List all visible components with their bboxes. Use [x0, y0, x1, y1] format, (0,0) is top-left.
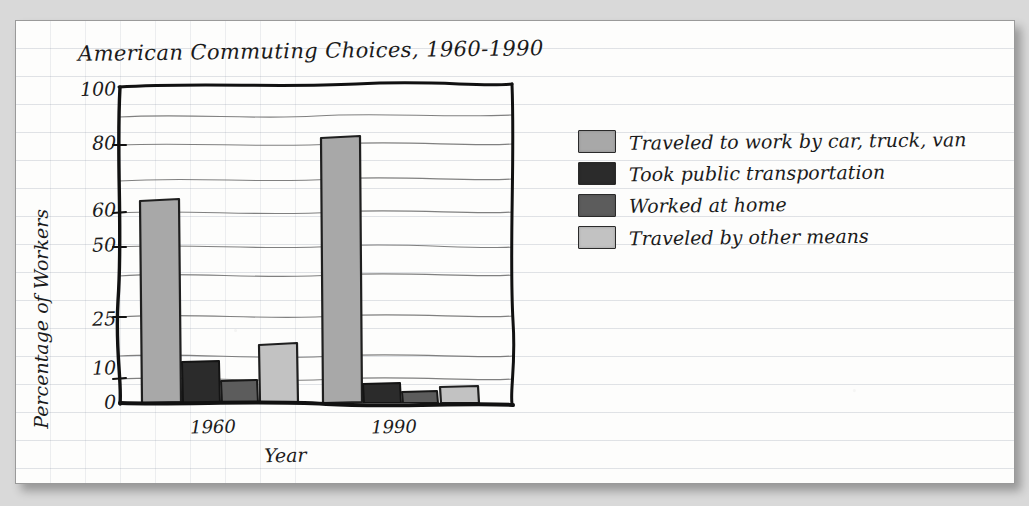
axis-x: [120, 402, 513, 405]
legend-item-worked-at-home: Worked at home: [578, 189, 967, 221]
bar-group-1990: [321, 136, 479, 403]
axis-top: [119, 83, 512, 87]
bars: [140, 136, 479, 403]
legend-swatch-other-means: [578, 226, 616, 249]
legend-item-car: Traveled to work by car, truck, van: [578, 125, 967, 157]
legend-swatch-car: [578, 130, 616, 153]
bar-1990-car: [321, 136, 362, 403]
legend-item-other-means: Traveled by other means: [578, 221, 967, 253]
bar-1960-car: [140, 199, 181, 403]
legend-swatch-worked-at-home: [578, 194, 616, 217]
bar-1960-home: [221, 380, 258, 403]
bar-1960-other: [259, 343, 298, 403]
bar-1990-other: [440, 386, 479, 403]
chart-legend: Traveled to work by car, truck, van Took…: [578, 125, 967, 253]
legend-swatch-public-transport: [578, 162, 616, 185]
legend-item-public-transport: Took public transportation: [578, 157, 967, 189]
bar-1990-home: [402, 391, 438, 403]
bar-group-1960: [140, 199, 298, 403]
bar-1960-transit: [182, 361, 220, 403]
legend-label-other-means: Traveled by other means: [629, 225, 869, 250]
screenshot-stage: American Commuting Choices, 1960-1990 Pe…: [0, 0, 1029, 506]
legend-label-car: Traveled to work by car, truck, van: [629, 128, 967, 154]
bar-1990-transit: [363, 383, 401, 403]
notebook-paper-card: American Commuting Choices, 1960-1990 Pe…: [15, 20, 1015, 484]
legend-label-public-transport: Took public transportation: [629, 161, 885, 186]
legend-label-worked-at-home: Worked at home: [629, 193, 787, 217]
axis-y: [117, 87, 120, 404]
